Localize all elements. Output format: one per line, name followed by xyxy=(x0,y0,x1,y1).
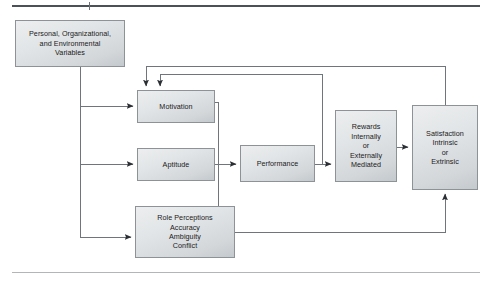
node-satisfaction[interactable]: Satisfaction Intrinsic or Extrinsic xyxy=(412,105,478,190)
node-satisfaction-label: Satisfaction Intrinsic or Extrinsic xyxy=(413,129,477,167)
connector-role-perceptions-to-satisfaction xyxy=(235,194,445,232)
connector-motivation-to-role-perceptions xyxy=(215,102,218,206)
node-motivation[interactable]: Motivation xyxy=(137,90,215,123)
node-rewards[interactable]: Rewards Internally or Externally Mediate… xyxy=(335,110,397,182)
node-rewards-label: Rewards Internally or Externally Mediate… xyxy=(336,122,396,169)
node-role-perceptions-label: Role Perceptions Accuracy Ambiguity Conf… xyxy=(136,213,234,251)
node-aptitude[interactable]: Aptitude xyxy=(137,148,215,181)
node-role-perceptions[interactable]: Role Perceptions Accuracy Ambiguity Conf… xyxy=(135,206,235,258)
node-performance[interactable]: Performance xyxy=(240,145,315,182)
node-performance-label: Performance xyxy=(241,159,314,168)
node-aptitude-label: Aptitude xyxy=(138,160,214,169)
node-variables-label: Personal, Organizational, and Environmen… xyxy=(16,29,124,57)
diagram-root: Personal, Organizational, and Environmen… xyxy=(0,0,492,281)
node-motivation-label: Motivation xyxy=(138,102,214,111)
bottom-divider-rule xyxy=(12,272,480,273)
node-variables[interactable]: Personal, Organizational, and Environmen… xyxy=(15,20,125,67)
